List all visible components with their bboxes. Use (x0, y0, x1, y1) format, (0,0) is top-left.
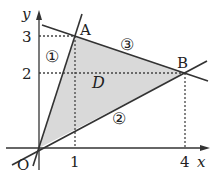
line-2-label: ② (112, 109, 126, 128)
line-3-label: ③ (120, 35, 134, 54)
origin-label: O (17, 156, 29, 174)
point-b-label: B (177, 54, 188, 72)
y-tick-3: 3 (22, 28, 32, 46)
x-axis-arrow-icon (200, 145, 210, 151)
x-tick-4: 4 (180, 153, 190, 171)
x-tick-1: 1 (70, 153, 80, 171)
line-1-label: ① (45, 47, 59, 66)
y-axis-arrow-icon (36, 10, 42, 20)
region-d (39, 36, 185, 148)
x-axis-label: x (197, 153, 206, 171)
y-tick-2: 2 (22, 65, 32, 83)
point-a-label: A (79, 21, 91, 39)
region-d-label: D (91, 73, 105, 92)
coordinate-diagram: y x O 3 2 1 4 A B D ① ② ③ (0, 0, 219, 181)
y-axis-label: y (21, 5, 31, 23)
